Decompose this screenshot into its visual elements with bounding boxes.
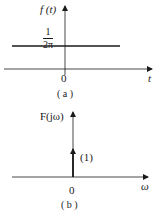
b-y-label: F(jω) bbox=[40, 111, 64, 122]
b-impulse-weight: (1) bbox=[80, 152, 93, 163]
b-x-label: ω bbox=[141, 181, 149, 192]
b-caption: ( b ) bbox=[61, 200, 78, 210]
diagram-canvas bbox=[0, 0, 164, 217]
figure-b-axes bbox=[12, 112, 148, 177]
a-level-fraction: 1 2π bbox=[43, 27, 53, 50]
a-level-numerator: 1 bbox=[43, 27, 53, 39]
a-x-label: t bbox=[148, 73, 151, 84]
a-origin-label: 0 bbox=[61, 73, 67, 84]
a-y-label: f (t) bbox=[40, 4, 56, 15]
a-caption: ( a ) bbox=[57, 89, 73, 99]
figure-a-axes bbox=[4, 6, 152, 75]
a-level-denominator: 2π bbox=[43, 39, 53, 50]
b-origin-label: 0 bbox=[69, 185, 75, 196]
